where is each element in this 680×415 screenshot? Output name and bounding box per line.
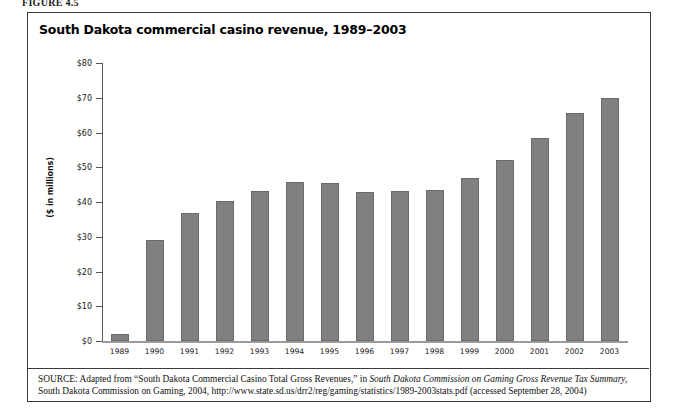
y-axis-tick-label: $70 xyxy=(58,93,92,102)
y-axis-tick-mark xyxy=(96,341,102,342)
figure-number-label: FIGURE 4.5 xyxy=(22,0,79,6)
bar xyxy=(391,191,409,341)
x-axis-tick-label: 1993 xyxy=(250,347,269,356)
y-axis-tick-label: $50 xyxy=(58,163,92,172)
x-axis-tick-label: 1996 xyxy=(355,347,374,356)
source-text-after: South Dakota Commission on Gaming, 2004,… xyxy=(38,386,587,396)
x-axis-tick-label: 2002 xyxy=(565,347,584,356)
y-axis-tick-label: $30 xyxy=(58,232,92,241)
bar xyxy=(251,191,269,341)
source-italic-title: South Dakota Commission on Gaming Gross … xyxy=(369,374,627,384)
bar xyxy=(111,334,129,341)
bar xyxy=(461,178,479,341)
chart-plot-wrapper: ($ in millions) $0$10$20$30$40$50$60$70$… xyxy=(28,43,649,363)
x-axis-tick-label: 1995 xyxy=(320,347,339,356)
x-axis-tick-label: 1998 xyxy=(425,347,444,356)
figure-box: South Dakota commercial casino revenue, … xyxy=(27,12,651,402)
x-axis-tick-label: 1999 xyxy=(460,347,479,356)
bars-container xyxy=(102,63,627,341)
x-axis-tick-label: 2000 xyxy=(495,347,514,356)
x-axis-tick-label: 1989 xyxy=(110,347,129,356)
bar xyxy=(566,113,584,341)
source-note: SOURCE: Adapted from “South Dakota Comme… xyxy=(38,373,642,397)
y-axis-tick-label: $0 xyxy=(58,337,92,346)
y-axis-title: ($ in millions) xyxy=(46,138,55,238)
y-axis-tick-label: $80 xyxy=(58,59,92,68)
x-axis-tick-label: 1991 xyxy=(180,347,199,356)
y-axis-tick-label: $40 xyxy=(58,198,92,207)
source-prefix: SOURCE: xyxy=(38,374,78,384)
bar xyxy=(426,190,444,342)
bar xyxy=(286,182,304,341)
bar xyxy=(216,201,234,341)
bar xyxy=(356,192,374,341)
source-divider xyxy=(28,368,649,369)
x-axis-tick-label: 2001 xyxy=(530,347,549,356)
bar xyxy=(496,160,514,341)
bar xyxy=(321,183,339,341)
chart-title: South Dakota commercial casino revenue, … xyxy=(39,22,406,37)
y-axis-tick-label: $60 xyxy=(58,128,92,137)
x-axis-tick-label: 1994 xyxy=(285,347,304,356)
bar xyxy=(601,98,619,341)
bar xyxy=(181,213,199,341)
source-text-before: Adapted from “South Dakota Commercial Ca… xyxy=(78,374,370,384)
bar xyxy=(146,240,164,341)
y-axis-tick-label: $20 xyxy=(58,267,92,276)
bar xyxy=(531,138,549,341)
x-axis-tick-label: 2003 xyxy=(600,347,619,356)
x-axis-tick-label: 1992 xyxy=(215,347,234,356)
x-axis-tick-label: 1997 xyxy=(390,347,409,356)
y-axis-tick-label: $10 xyxy=(58,302,92,311)
x-axis-line xyxy=(102,341,628,343)
x-axis-tick-label: 1990 xyxy=(145,347,164,356)
